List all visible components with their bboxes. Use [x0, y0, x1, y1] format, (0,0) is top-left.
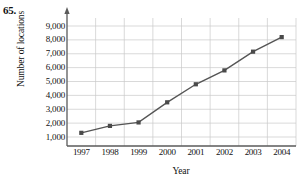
- x-axis-tick: 2004: [265, 148, 299, 157]
- line-chart-figure: Number of locations Year 9,0008,0007,000…: [0, 0, 302, 180]
- x-axis-tick-labels: 19971998199920002001200220032004: [0, 0, 302, 180]
